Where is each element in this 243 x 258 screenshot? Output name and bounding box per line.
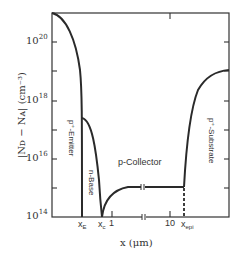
y-ticks-left xyxy=(52,42,57,188)
y-tick-label-1e14: 1014 xyxy=(26,210,48,221)
x-tick-label-xc: xc xyxy=(98,219,106,229)
collector-profile-curve xyxy=(102,187,184,217)
x-tick-label-10: 10 xyxy=(165,218,175,228)
y-axis-label: |Nᴅ − Nᴀ| (cm⁻³) xyxy=(16,72,27,158)
region-label-substrate: p⁺-Substrate xyxy=(207,118,216,163)
x-tick-label-xE: xE xyxy=(78,219,87,229)
y-tick-label-1e18: 1018 xyxy=(26,94,48,105)
region-label-collector: p-Collector xyxy=(118,157,162,167)
x-tick-label-xepi: xepi xyxy=(181,219,194,229)
collector-break xyxy=(141,183,145,191)
x-axis-break xyxy=(142,213,146,221)
y-ticks-right xyxy=(224,42,229,188)
emitter-profile-curve xyxy=(52,13,82,217)
y-tick-label-1e16: 1016 xyxy=(26,152,48,163)
region-label-base: n-Base xyxy=(87,170,96,195)
x-ticks-bottom xyxy=(112,211,170,217)
x-tick-label-1: 1 xyxy=(109,218,114,228)
base-profile-curve xyxy=(82,118,102,217)
y-tick-label-1e20: 1020 xyxy=(26,35,48,46)
x-axis-label: x (μm) xyxy=(120,237,153,248)
region-label-emitter: p⁺-Emitter xyxy=(67,120,76,156)
